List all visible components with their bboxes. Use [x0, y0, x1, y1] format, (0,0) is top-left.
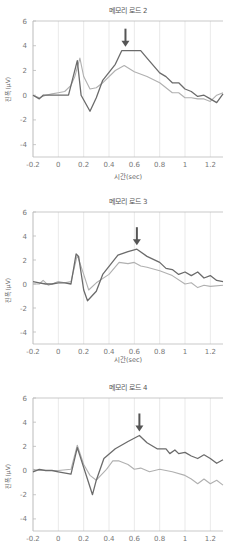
x-tick-label: 1 — [183, 161, 187, 169]
y-tick-label: 2 — [23, 67, 27, 75]
chart-panel-load-4: 메모리 로드 4 -0.200.20.40.60.811.26420-2-4 진… — [0, 366, 233, 545]
y-axis-label: 진폭(μV) — [3, 273, 12, 303]
x-tick-label: 0.8 — [154, 535, 165, 543]
x-tick-label: 1 — [183, 535, 187, 543]
x-tick-label: 0.4 — [103, 161, 115, 169]
y-tick-label: 2 — [23, 257, 27, 265]
chart-panel-load-3: 메모리 로드 3 -0.200.20.40.60.811.26420-2-4 진… — [0, 183, 233, 363]
y-tick-label: 0 — [23, 92, 27, 100]
series-line-dark — [33, 51, 223, 112]
y-tick-label: 4 — [23, 419, 28, 427]
y-tick-label: 2 — [23, 443, 27, 451]
plot-area: -0.200.20.40.60.811.26420-2-4 — [0, 0, 233, 180]
peak-arrow-icon — [135, 413, 143, 431]
x-tick-label: -0.2 — [26, 161, 40, 169]
y-tick-label: 6 — [23, 209, 28, 217]
peak-arrow-icon — [121, 29, 129, 47]
x-tick-label: 0.6 — [129, 535, 141, 543]
y-tick-label: 0 — [23, 467, 27, 475]
plot-area: -0.200.20.40.60.811.26420-2-4 — [0, 366, 233, 545]
plot-area: -0.200.20.40.60.811.26420-2-4 — [0, 183, 233, 363]
y-tick-label: -2 — [20, 116, 27, 124]
series-line-light — [33, 255, 223, 290]
y-tick-label: 4 — [23, 233, 28, 241]
x-tick-label: -0.2 — [26, 535, 40, 543]
y-tick-label: -4 — [20, 329, 28, 337]
x-tick-label: 0.2 — [78, 535, 89, 543]
y-tick-label: 6 — [23, 18, 28, 26]
series-line-dark — [33, 249, 223, 301]
x-tick-label: 0.2 — [78, 161, 89, 169]
x-tick-label: 1.2 — [205, 161, 216, 169]
y-tick-label: 0 — [23, 281, 27, 289]
y-tick-label: -4 — [20, 141, 28, 149]
y-tick-label: 6 — [23, 395, 28, 403]
x-axis-label: 시간(sec) — [33, 171, 223, 181]
x-tick-label: 0 — [56, 535, 60, 543]
x-tick-label: 0.6 — [129, 161, 141, 169]
x-tick-label: 0.8 — [154, 161, 165, 169]
x-tick-label: 1.2 — [205, 535, 216, 543]
chart-panel-load-2: 메모리 로드 2 -0.200.20.40.60.811.26420-2-4 진… — [0, 0, 233, 180]
y-axis-label: 진폭(μV) — [3, 459, 12, 489]
y-tick-label: -4 — [20, 515, 28, 523]
x-tick-label: 0.4 — [103, 535, 115, 543]
series-line-light — [33, 445, 223, 485]
x-tick-label: 0 — [56, 161, 60, 169]
x-axis-label: 시간(sec) — [33, 354, 223, 364]
y-tick-label: -2 — [20, 491, 27, 499]
y-tick-label: 4 — [23, 42, 28, 50]
y-tick-label: -2 — [20, 305, 27, 313]
y-axis-label: 진폭(μV) — [3, 72, 12, 102]
